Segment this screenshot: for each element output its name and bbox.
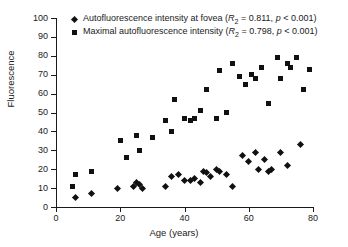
data-point <box>307 67 312 72</box>
data-point <box>294 55 299 60</box>
x-axis-tick-label: 60 <box>229 214 269 223</box>
data-point <box>163 118 168 123</box>
data-point <box>72 194 79 201</box>
data-point <box>245 158 252 165</box>
y-axis-tick-label: 70 <box>6 70 48 79</box>
chart-legend: Autofluorescence intensity at fovea (R2 … <box>68 13 318 39</box>
data-point <box>197 179 204 186</box>
data-point <box>266 101 271 106</box>
data-point <box>134 133 139 138</box>
data-point <box>88 190 95 197</box>
y-axis-tick-label: 60 <box>6 89 48 98</box>
data-point <box>275 55 280 60</box>
data-point <box>255 166 262 173</box>
y-axis-tick <box>51 169 56 170</box>
legend-label: Maximal autofluorescence intensity (R2 =… <box>80 25 318 41</box>
y-axis-tick <box>51 188 56 189</box>
data-point <box>277 149 284 156</box>
data-point <box>182 116 187 121</box>
data-point <box>297 141 304 148</box>
y-axis-tick-label: 10 <box>6 184 48 193</box>
data-point <box>113 185 120 192</box>
data-point <box>118 138 123 143</box>
y-axis-tick <box>51 150 56 151</box>
data-point <box>284 162 291 169</box>
x-axis-tick-label: 80 <box>293 214 333 223</box>
y-axis-tick <box>51 131 56 132</box>
diamond-marker-icon <box>68 17 80 22</box>
y-axis-tick-label: 100 <box>6 14 48 23</box>
y-axis-tick-label: 80 <box>6 51 48 60</box>
data-point <box>207 173 214 180</box>
data-point <box>198 108 203 113</box>
y-axis-tick-label: 20 <box>6 165 48 174</box>
data-point <box>223 171 230 178</box>
data-point <box>124 155 129 160</box>
data-point <box>278 76 283 81</box>
legend-item: Maximal autofluorescence intensity (R2 =… <box>68 26 318 39</box>
data-point <box>261 156 268 163</box>
y-axis-tick-label: 30 <box>6 146 48 155</box>
data-point <box>169 129 174 134</box>
data-point <box>175 171 182 178</box>
y-axis-tick <box>51 37 56 38</box>
x-axis-tick-label: 0 <box>36 214 76 223</box>
square-marker-icon <box>68 30 80 35</box>
y-axis-tick-label: 50 <box>6 108 48 117</box>
data-point <box>252 149 259 156</box>
y-axis-tick <box>51 75 56 76</box>
data-point <box>253 76 258 81</box>
data-point <box>162 183 169 190</box>
data-point <box>70 184 75 189</box>
data-point <box>139 185 146 192</box>
y-axis-tick <box>51 113 56 114</box>
data-point <box>73 172 78 177</box>
x-axis-tick <box>313 207 314 212</box>
data-point <box>230 61 235 66</box>
y-axis-tick-label: 0 <box>6 203 48 212</box>
y-axis-tick-label: 90 <box>6 32 48 41</box>
y-axis-tick <box>51 94 56 95</box>
data-point <box>137 148 142 153</box>
data-point <box>172 97 177 102</box>
y-axis-tick <box>51 56 56 57</box>
data-point <box>259 65 264 70</box>
y-axis-tick-label: 40 <box>6 127 48 136</box>
data-point <box>288 65 293 70</box>
y-axis-tick <box>51 18 56 19</box>
data-point <box>243 82 248 87</box>
x-axis-tick-label: 40 <box>165 214 205 223</box>
data-point <box>192 116 197 121</box>
x-axis-tick <box>56 207 57 212</box>
scatter-plot-figure: Fluorescence Age (years) 010203040506070… <box>0 0 348 247</box>
data-point <box>224 110 229 115</box>
x-axis-tick <box>120 207 121 212</box>
x-axis-title: Age (years) <box>0 228 348 238</box>
x-axis-tick <box>249 207 250 212</box>
data-point <box>217 68 222 73</box>
data-point <box>150 135 155 140</box>
data-point <box>89 169 94 174</box>
data-point <box>204 87 209 92</box>
data-point <box>237 74 242 79</box>
data-point <box>214 116 219 121</box>
data-point <box>229 183 236 190</box>
plot-area: 0102030405060708090100020406080Autofluor… <box>56 18 313 207</box>
data-point <box>301 87 306 92</box>
data-point <box>239 152 246 159</box>
x-axis-tick <box>185 207 186 212</box>
x-axis-tick-label: 20 <box>100 214 140 223</box>
